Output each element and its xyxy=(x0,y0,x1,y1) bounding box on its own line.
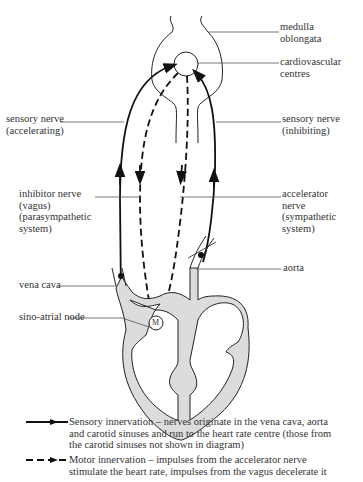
legend-dashed-line xyxy=(26,457,68,463)
legend-solid-line xyxy=(26,419,68,425)
vena-cava-receptor xyxy=(118,273,124,279)
label-sensory-nerve-accelerating: sensory nerve (accelerating) xyxy=(6,113,64,136)
sensory-nerve-inhibiting xyxy=(197,74,215,262)
label-sensory-nerve-inhibiting: sensory nerve (inhibiting) xyxy=(282,113,340,136)
label-accelerator-nerve: accelerator nerve (sympathetic system) xyxy=(282,188,336,234)
label-inhibitor-nerve: inhibitor nerve (vagus) (parasympathetic… xyxy=(19,188,91,234)
label-medulla-oblongata: medulla oblongata xyxy=(280,21,321,44)
sensory-nerve-accelerating xyxy=(120,66,171,298)
label-vena-cava: vena cava xyxy=(19,279,61,291)
legend-motor-text: Motor innervation – impulses from the ac… xyxy=(69,454,327,477)
cardiovascular-centre xyxy=(174,52,198,76)
label-cardiovascular-centres: cardiovascular centres xyxy=(280,56,341,79)
label-sino-atrial-node: sino-atrial node xyxy=(19,311,85,323)
sa-node-mark: M xyxy=(152,317,159,329)
heart xyxy=(112,236,249,440)
vagus-nerve xyxy=(140,73,178,318)
legend-sensory-text: Sensory innervation – nerves originate i… xyxy=(69,416,331,451)
aorta-receptor xyxy=(198,252,204,258)
leader-lines xyxy=(58,32,281,328)
label-aorta: aorta xyxy=(283,262,304,274)
